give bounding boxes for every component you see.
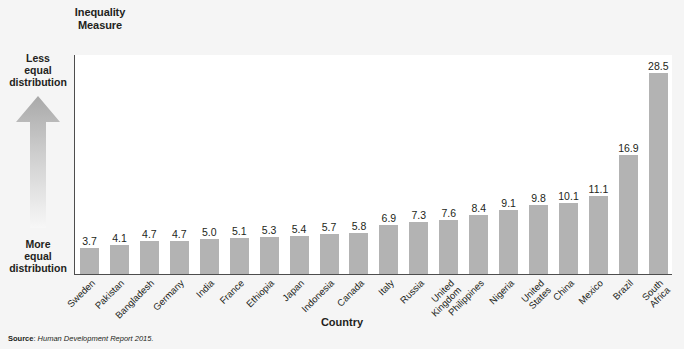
bar (110, 245, 129, 274)
x-axis-label: Sweden (65, 278, 96, 309)
bar-column: 11.1 (589, 55, 608, 274)
bar-value-label: 6.9 (382, 213, 397, 224)
bar-column: 28.5 (649, 55, 668, 274)
more-equal-distribution-label: More equal distribution (2, 238, 74, 274)
bar-column: 7.3 (409, 55, 428, 274)
bar-value-label: 4.7 (142, 229, 157, 240)
bar-column: 8.4 (469, 55, 488, 274)
bar-value-label: 5.3 (262, 225, 277, 236)
bar (170, 241, 189, 274)
bar-value-label: 4.1 (112, 233, 127, 244)
bar (499, 210, 518, 274)
up-arrow-gradient-icon (2, 96, 74, 228)
bar-column: 5.8 (349, 55, 368, 274)
bar-column: 10.1 (559, 55, 578, 274)
bar-value-label: 10.1 (558, 191, 578, 202)
bar (230, 238, 249, 274)
less-equal-distribution-label: Less equal distribution (2, 52, 74, 88)
bar (379, 225, 398, 274)
bar-value-label: 9.8 (531, 193, 546, 204)
bar-value-label: 5.4 (292, 224, 307, 235)
bar-column: 6.9 (379, 55, 398, 274)
bar (349, 233, 368, 274)
bar (80, 248, 99, 274)
x-axis-label: India (195, 278, 217, 300)
x-axis-label: Ethiopia (245, 278, 276, 309)
x-axis-label: Russia (398, 278, 426, 306)
bar-column: 9.8 (529, 55, 548, 274)
bar (140, 241, 159, 274)
bar (619, 155, 638, 274)
bar-value-label: 11.1 (589, 184, 609, 195)
bar-value-label: 3.7 (82, 236, 97, 247)
bar-value-label: 28.5 (648, 61, 668, 72)
direction-indicator-panel: Less equal distribution More equal distr… (2, 52, 74, 274)
bar (260, 237, 279, 274)
x-axis-label: Canada (335, 278, 366, 309)
bar (469, 215, 488, 274)
bar-column: 16.9 (619, 55, 638, 274)
bar (559, 203, 578, 274)
bar-value-label: 8.4 (471, 203, 486, 214)
bar (290, 236, 309, 274)
bar-value-label: 5.1 (232, 226, 247, 237)
bar-value-label: 5.8 (352, 221, 367, 232)
bar (529, 205, 548, 274)
x-axis-label: Mexico (577, 278, 605, 306)
x-axis-label: Nigeria (487, 278, 515, 306)
bar-column: 4.7 (170, 55, 189, 274)
bar-column: 3.7 (80, 55, 99, 274)
y-axis-title: Inequality Measure (52, 6, 148, 31)
bar-value-label: 16.9 (618, 143, 638, 154)
bar (200, 239, 219, 274)
x-axis-label: Brazil (612, 278, 636, 302)
bar (589, 196, 608, 274)
bar (439, 220, 458, 274)
bar-value-label: 5.7 (322, 222, 337, 233)
bar-column: 7.6 (439, 55, 458, 274)
bar-series: 3.74.14.74.75.05.15.35.45.75.86.97.37.68… (76, 55, 672, 274)
bar-column: 5.0 (200, 55, 219, 274)
bar (320, 234, 339, 274)
source-note: Source: Human Development Report 2015. (8, 334, 154, 343)
bar-column: 5.1 (230, 55, 249, 274)
bar-value-label: 7.3 (412, 210, 427, 221)
x-axis-label: China (551, 278, 576, 303)
x-axis-title: Country (0, 316, 684, 328)
bar-column: 5.3 (260, 55, 279, 274)
bar-column: 5.4 (290, 55, 309, 274)
bar-value-label: 9.1 (501, 198, 516, 209)
bar-column: 9.1 (499, 55, 518, 274)
x-axis-label: Japan (281, 278, 306, 303)
bar-value-label: 4.7 (172, 229, 187, 240)
bar-column: 4.7 (140, 55, 159, 274)
inequality-bar-chart-figure: Inequality Measure Less equal distributi… (0, 0, 684, 349)
bar-value-label: 7.6 (441, 208, 456, 219)
x-axis-label: South Africa (641, 278, 673, 310)
x-axis-label: France (218, 278, 246, 306)
bar-column: 4.1 (110, 55, 129, 274)
x-axis-label: Italy (377, 278, 396, 297)
bar-value-label: 5.0 (202, 227, 217, 238)
source-label: Source (8, 334, 33, 343)
source-text: Human Development Report 2015. (38, 334, 154, 343)
bar (649, 73, 668, 274)
bar-column: 5.7 (320, 55, 339, 274)
x-axis-label: United States (519, 278, 553, 312)
bar (409, 222, 428, 274)
